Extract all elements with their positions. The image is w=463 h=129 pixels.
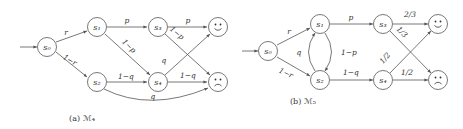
m5-edge-s2-s1: [309, 33, 316, 71]
m4-label-s3-happy: p: [186, 16, 191, 25]
m4-node-s1: s₁: [88, 18, 107, 37]
m4-node-happy-smiley-icon: [209, 18, 228, 37]
m4-label-s1-s4: 1−p: [120, 37, 138, 55]
m4-node-s0-label: s₀: [43, 43, 51, 52]
m5-node-sad-frowny-icon: [429, 71, 448, 90]
m4-label-s2-sad: q: [151, 92, 156, 101]
m5-caption: (b) ℳ₅: [290, 97, 316, 106]
diagram-m5: r 1−r p 1−p q 1−q 2/3 1/3 1/2 1/2 s₀ s₁ …: [242, 10, 448, 106]
m5-node-s4: s₄: [374, 71, 393, 90]
m4-node-s3-label: s₃: [154, 23, 161, 32]
m5-edge-s0-s1: [277, 28, 310, 45]
m4-node-s3: s₃: [149, 18, 168, 37]
m5-label-s0-s1: r: [287, 27, 291, 36]
m5-node-s3-label: s₃: [379, 20, 386, 29]
m4-node-s1-label: s₁: [93, 23, 100, 32]
m5-label-s3-sad: 1/3: [395, 25, 410, 40]
m4-caption: (a) ℳ₄: [69, 114, 95, 123]
m4-node-s2-label: s₂: [93, 78, 100, 87]
m5-node-s1-label: s₁: [316, 20, 323, 29]
m5-label-s1-s2: 1−p: [341, 48, 357, 57]
m4-node-s4: s₄: [149, 73, 168, 92]
m5-label-s0-s2: 1−r: [277, 66, 294, 81]
m4-label-s0-s1: r: [64, 28, 68, 37]
m5-node-s2-label: s₂: [316, 76, 323, 85]
diagram-canvas: r 1−r p 1−p 1−q q p 1−p q 1−q s₀ s₁ s₂ s…: [0, 0, 463, 129]
m5-label-s4-happy: 1/2: [378, 50, 393, 65]
m5-node-s0-label: s₀: [264, 47, 272, 56]
m5-label-s1-s3: p: [349, 13, 354, 22]
m5-label-s2-s4: 1−q: [343, 68, 359, 77]
m5-label-s2-s1: q: [297, 48, 302, 57]
m4-node-sad-frowny-icon: [209, 73, 228, 92]
m5-label-s4-sad: 1/2: [401, 68, 413, 77]
m4-node-s2: s₂: [88, 73, 107, 92]
m4-node-s0: s₀: [38, 38, 57, 57]
m5-node-s4-label: s₄: [379, 76, 386, 85]
m4-label-s1-s3: p: [125, 16, 130, 25]
m4-label-s0-s2: 1−r: [61, 52, 79, 67]
m5-node-s0: s₀: [259, 42, 278, 61]
m4-edge-s0-s1: [56, 31, 87, 42]
diagram-m4: r 1−r p 1−p 1−q q p 1−p q 1−q s₀ s₁ s₂ s…: [20, 16, 228, 123]
m5-node-happy-smiley-icon: [429, 15, 448, 34]
m5-node-s3: s₃: [374, 15, 393, 34]
m5-edge-s1-s2: [325, 33, 332, 71]
m5-label-s3-happy: 2/3: [403, 10, 416, 19]
m5-node-s2: s₂: [311, 71, 330, 90]
m5-node-s1: s₁: [311, 15, 330, 34]
m4-label-s4-sad: 1−q: [180, 71, 196, 80]
m4-label-s2-s4: 1−q: [118, 72, 134, 81]
m4-node-s4-label: s₄: [154, 78, 161, 87]
m4-label-s4-happy: q: [162, 56, 167, 65]
